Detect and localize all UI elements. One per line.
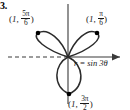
theta-denominator: 6 xyxy=(98,19,103,27)
petal-upper-right xyxy=(68,32,99,57)
close-paren: ) xyxy=(90,99,93,109)
comma: , xyxy=(76,99,78,109)
x-axis-arrowhead-icon xyxy=(112,54,120,61)
theta-denominator: 6 xyxy=(21,19,30,27)
point-marker-upper-left xyxy=(36,31,41,36)
point-label-bottom: (1, 3π2) xyxy=(68,95,93,110)
polar-rose-figure: 3. (1, 5π6) (1, π6) (1, 3π2) xyxy=(0,0,130,110)
close-paren: ) xyxy=(31,14,34,24)
equation-label: r = sin 3θ xyxy=(74,59,108,68)
theta-denominator: 2 xyxy=(80,104,89,110)
comma: , xyxy=(94,14,96,24)
point-marker-upper-right xyxy=(95,31,100,36)
equation-angle-symbol: θ xyxy=(104,58,108,68)
petal-upper-left xyxy=(36,32,68,57)
close-paren: ) xyxy=(104,14,107,24)
equation-function: sin 3 xyxy=(87,58,103,68)
point-label-upper-right: (1, π6) xyxy=(86,10,107,26)
theta-fraction: π6 xyxy=(98,10,103,26)
comma: , xyxy=(17,14,19,24)
equation-variable: r xyxy=(74,58,77,68)
theta-fraction: 3π2 xyxy=(80,95,89,110)
point-label-upper-left: (1, 5π6) xyxy=(9,10,34,26)
theta-fraction: 5π6 xyxy=(21,10,30,26)
equation-equals: = xyxy=(79,58,85,68)
